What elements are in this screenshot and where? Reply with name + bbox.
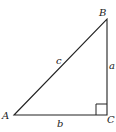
vertex-label-a: A <box>1 110 9 121</box>
right-triangle-diagram: B A C a b c <box>0 0 116 132</box>
right-angle-marker <box>96 104 107 115</box>
side-label-c: c <box>56 55 62 66</box>
vertex-label-b: B <box>98 7 106 18</box>
side-label-b: b <box>57 118 63 129</box>
triangle-outline <box>14 19 107 115</box>
vertex-label-c: C <box>107 114 115 125</box>
side-label-a: a <box>109 60 115 71</box>
